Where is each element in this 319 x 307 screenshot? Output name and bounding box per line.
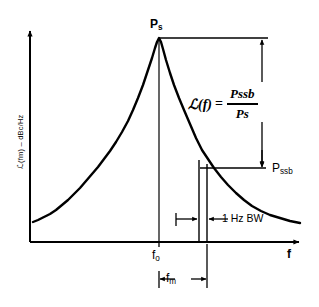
carrier-frequency-subscript: o — [155, 254, 160, 263]
y-axis-label: ℒ(fm) – dBc/Hz — [17, 97, 25, 187]
phase-noise-formula: ℒ(f) = Pssb Ps — [188, 86, 258, 122]
formula-fraction: Pssb Ps — [227, 86, 258, 122]
formula-equals-sign: = — [215, 96, 227, 112]
formula-denominator: Ps — [233, 105, 252, 122]
carrier-frequency-label: fo — [152, 249, 160, 261]
bandwidth-label: 1 Hz BW — [222, 213, 263, 224]
offset-frequency-label: fm — [166, 272, 176, 284]
formula-numerator: Pssb — [227, 86, 258, 103]
sideband-power-label: Pssb — [272, 162, 293, 174]
peak-power-subscript: s — [158, 23, 163, 32]
offset-frequency-subscript: m — [169, 277, 176, 286]
x-axis-label: f — [287, 248, 291, 260]
peak-power-label: Ps — [150, 18, 163, 30]
formula-left-hand-side: ℒ(f) — [188, 96, 215, 113]
peak-power-text: P — [150, 17, 158, 31]
sideband-power-text: P — [272, 161, 280, 175]
spectrum-curve — [33, 38, 300, 223]
phase-noise-figure: ℒ(fm) – dBc/Hz Ps Pssb 1 Hz BW fo f fm ℒ… — [0, 0, 319, 307]
sideband-power-subscript: ssb — [280, 167, 293, 176]
